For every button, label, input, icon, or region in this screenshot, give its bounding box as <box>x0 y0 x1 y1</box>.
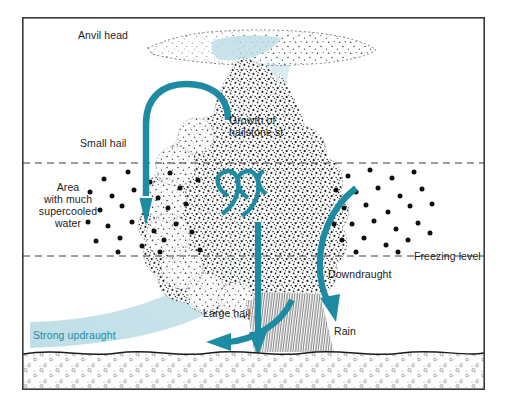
label-large-hail: Large hail <box>203 307 250 319</box>
label-freezing-level: Freezing level <box>414 250 481 262</box>
label-strong-updraught: Strong updraught <box>33 329 116 341</box>
label-small-hail: Small hail <box>80 137 127 149</box>
label-rain: Rain <box>334 325 356 337</box>
diagram-canvas: Anvil head Small hail Growth of hailston… <box>0 0 506 417</box>
label-area-line1: Area <box>30 181 106 193</box>
ground <box>23 351 484 389</box>
label-growth-of-hailstone-line1: Growth of <box>229 114 275 126</box>
label-anvil-head: Anvil head <box>78 29 128 41</box>
label-area-line3: supercooled <box>30 205 106 217</box>
label-area-line2: with much <box>30 193 106 205</box>
label-area-line4: water <box>30 217 106 229</box>
label-growth-of-hailstone-line2: hailstone st <box>229 126 283 138</box>
label-downdraught: Downdraught <box>328 268 392 280</box>
